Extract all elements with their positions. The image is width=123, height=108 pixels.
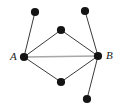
node-top-left bbox=[31, 8, 39, 16]
node-top-middle bbox=[57, 26, 65, 34]
node-b bbox=[94, 52, 102, 60]
node-bottom-right bbox=[83, 95, 91, 103]
edge-a-b bbox=[24, 56, 98, 57]
graph-figure: AB bbox=[0, 0, 123, 108]
edge-a-bottom-middle bbox=[24, 57, 61, 82]
node-a bbox=[20, 53, 28, 61]
label-a: A bbox=[10, 51, 17, 62]
node-bottom-middle bbox=[57, 78, 65, 86]
node-top-right bbox=[81, 7, 89, 15]
edge-b-top-middle bbox=[61, 30, 98, 56]
graph-canvas bbox=[0, 0, 123, 108]
label-b: B bbox=[106, 50, 113, 61]
edge-b-top-right bbox=[85, 11, 98, 56]
